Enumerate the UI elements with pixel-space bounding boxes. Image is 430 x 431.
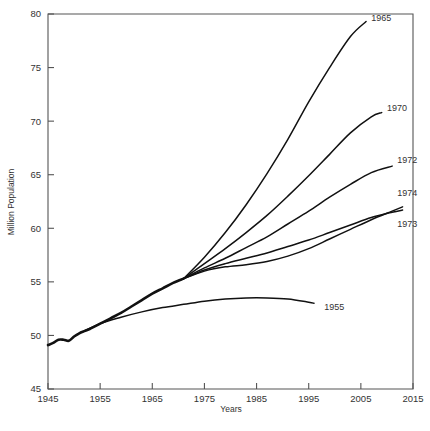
y-axis-tick-label: 55 [30, 276, 41, 287]
x-axis-tick-label: 1985 [246, 393, 267, 404]
series-label-1972: 1972 [397, 155, 417, 165]
x-axis-tick-label: 1945 [37, 393, 58, 404]
y-axis-tick-label: 65 [30, 169, 41, 180]
y-axis-tick-label: 60 [30, 223, 41, 234]
x-axis-tick-label: 1955 [90, 393, 111, 404]
x-axis-tick-label: 1965 [142, 393, 163, 404]
chart-canvas: 4550556065707580194519551965197519851995… [0, 0, 430, 431]
line-chart: 4550556065707580194519551965197519851995… [0, 0, 430, 431]
series-label-1973: 1973 [397, 219, 417, 229]
y-axis-tick-label: 50 [30, 330, 41, 341]
plot-frame [48, 14, 413, 389]
x-axis-tick-label: 2005 [350, 393, 371, 404]
trunk-curve [48, 279, 184, 345]
x-axis-tick-label: 2015 [402, 393, 423, 404]
y-axis-tick-label: 75 [30, 62, 41, 73]
series-label-1965: 1965 [371, 13, 391, 23]
series-label-1970: 1970 [387, 103, 407, 113]
x-axis-title: Years [220, 404, 241, 414]
axes: 4550556065707580194519551965197519851995… [30, 8, 423, 404]
x-axis-tick-label: 1995 [298, 393, 319, 404]
series-curve-1972 [184, 166, 393, 279]
y-axis-title: Million Population [6, 168, 16, 235]
series-labels: 196519701972197419731955 [324, 13, 417, 311]
y-axis-tick-label: 70 [30, 116, 41, 127]
series-curves [48, 22, 403, 346]
y-axis-tick-label: 80 [30, 8, 41, 19]
series-curve-1965 [184, 22, 367, 279]
x-axis-tick-label: 1975 [194, 393, 215, 404]
series-label-1955: 1955 [324, 302, 344, 312]
series-label-1974: 1974 [397, 188, 417, 198]
series-curve-1970 [184, 113, 382, 279]
